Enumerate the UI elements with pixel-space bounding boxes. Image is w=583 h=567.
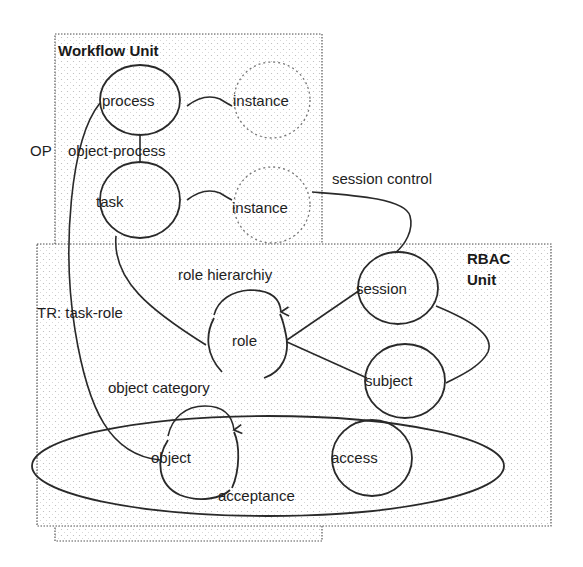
label-task: task	[96, 193, 124, 210]
label-acceptance: acceptance	[218, 487, 295, 504]
label-role: role	[232, 332, 257, 349]
label-access: access	[331, 449, 378, 466]
label-process-instance: instance	[233, 92, 289, 109]
label-object: object	[151, 449, 192, 466]
label-process: process	[102, 92, 155, 109]
rbac-unit-title-line1: RBAC	[467, 250, 510, 267]
workflow-unit-title: Workflow Unit	[58, 42, 159, 59]
label-object-category: object category	[108, 379, 210, 396]
label-object-process: object-process	[68, 142, 166, 159]
label-task-role: TR: task-role	[37, 304, 123, 321]
label-session-control: session control	[332, 170, 432, 187]
label-role-hierarchy: role hierarchiy	[178, 266, 273, 283]
label-op-prefix: OP	[30, 142, 52, 159]
workflow-rbac-diagram: Workflow Unit RBAC Unit process instance…	[0, 0, 583, 567]
label-subject: subject	[365, 372, 413, 389]
label-task-instance: instance	[232, 199, 288, 216]
label-session: session	[356, 280, 407, 297]
rbac-unit-title-line2: Unit	[467, 271, 496, 288]
